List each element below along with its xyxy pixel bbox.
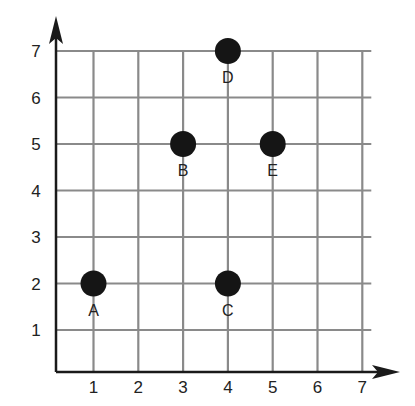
y-tick-label: 2 bbox=[31, 275, 40, 294]
point-c: C bbox=[215, 271, 241, 319]
y-tick-label: 6 bbox=[31, 89, 40, 108]
point-marker bbox=[170, 131, 196, 157]
point-a: A bbox=[81, 271, 107, 319]
axes bbox=[56, 30, 386, 372]
x-tick-label: 7 bbox=[358, 378, 367, 397]
y-tick-label: 1 bbox=[31, 321, 40, 340]
x-tick-label: 6 bbox=[313, 378, 322, 397]
x-tick-label: 4 bbox=[223, 378, 232, 397]
y-tick-labels: 1234567 bbox=[31, 42, 40, 340]
x-tick-label: 3 bbox=[178, 378, 187, 397]
y-tick-label: 4 bbox=[31, 182, 40, 201]
point-b: B bbox=[170, 131, 196, 179]
point-marker bbox=[215, 271, 241, 297]
x-tick-labels: 1234567 bbox=[89, 378, 367, 397]
point-label: D bbox=[222, 69, 234, 86]
point-marker bbox=[81, 271, 107, 297]
x-tick-label: 1 bbox=[89, 378, 98, 397]
point-label: B bbox=[178, 162, 189, 179]
point-marker bbox=[215, 38, 241, 64]
x-tick-label: 2 bbox=[134, 378, 143, 397]
point-label: A bbox=[88, 302, 99, 319]
y-tick-label: 7 bbox=[31, 42, 40, 61]
coordinate-grid-chart: 1234567 1234567 ABCDE bbox=[0, 0, 415, 406]
x-tick-label: 5 bbox=[268, 378, 277, 397]
y-tick-label: 5 bbox=[31, 135, 40, 154]
gridlines bbox=[56, 51, 371, 372]
y-tick-label: 3 bbox=[31, 228, 40, 247]
point-label: E bbox=[267, 162, 278, 179]
point-e: E bbox=[260, 131, 286, 179]
point-marker bbox=[260, 131, 286, 157]
point-label: C bbox=[222, 302, 234, 319]
point-d: D bbox=[215, 38, 241, 86]
